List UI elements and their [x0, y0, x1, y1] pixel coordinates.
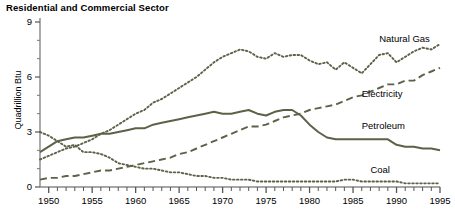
series-label-electricity: Electricity	[362, 88, 403, 99]
series-line-natural-gas	[40, 44, 440, 160]
x-tick-label: 1950	[29, 195, 69, 206]
x-tick-label: 1995	[420, 195, 455, 206]
y-tick-label: 0	[18, 181, 32, 192]
x-tick-label: 1960	[116, 195, 156, 206]
series-label-petroleum: Petroleum	[362, 120, 405, 131]
series-label-coal: Coal	[370, 164, 390, 175]
series-label-natural-gas: Natural Gas	[379, 33, 430, 44]
x-tick-label: 1985	[333, 195, 373, 206]
x-tick-label: 1980	[290, 195, 330, 206]
x-tick-label: 1970	[203, 195, 243, 206]
y-tick-label: 6	[18, 71, 32, 82]
x-tick-label: 1990	[377, 195, 417, 206]
x-tick-label: 1975	[246, 195, 286, 206]
y-tick-label: 9	[18, 16, 32, 27]
x-tick-label: 1955	[72, 195, 112, 206]
y-tick-label: 3	[18, 126, 32, 137]
series-line-petroleum	[40, 110, 440, 152]
x-tick-label: 1965	[159, 195, 199, 206]
